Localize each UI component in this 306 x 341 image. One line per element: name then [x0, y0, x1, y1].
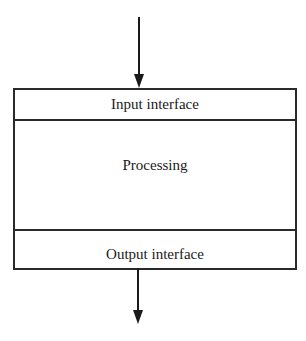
input-interface-label: Input interface [111, 96, 199, 113]
input-arrow-head [134, 74, 144, 88]
module-box: Input interface Processing Output interf… [13, 88, 297, 270]
output-interface-label: Output interface [106, 246, 204, 263]
output-arrow-head [133, 310, 143, 324]
processing-section: Processing [15, 121, 295, 229]
processing-label: Processing [123, 157, 188, 174]
output-arrow-shaft [137, 268, 139, 313]
output-interface-section: Output interface [15, 231, 295, 268]
input-interface-section: Input interface [15, 90, 295, 119]
input-arrow-shaft [138, 17, 140, 77]
